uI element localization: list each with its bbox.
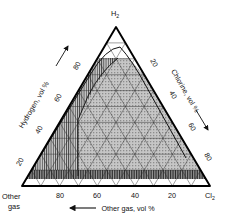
bottom-tick-80: 80 [56, 191, 64, 200]
bottom-tick-60: 60 [93, 191, 101, 200]
bottom-tick-20: 20 [168, 191, 176, 200]
left-corner-label-line2: gas [8, 202, 20, 211]
bottom-tick-40: 40 [131, 191, 139, 200]
bottom-axis-label: Other gas, vol % [101, 204, 155, 213]
lower-dense-band-region [22, 170, 210, 179]
ternary-diagram: H2 Other gas Cl2 20 40 60 80 20 40 60 80… [0, 0, 225, 216]
left-corner-label-line1: Other [2, 192, 21, 201]
